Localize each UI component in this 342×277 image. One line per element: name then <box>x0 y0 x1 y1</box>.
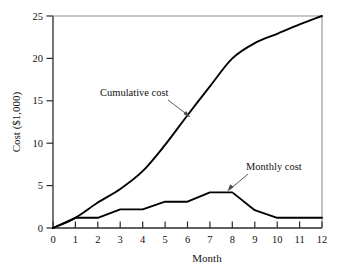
x-tick-label: 0 <box>50 234 55 245</box>
x-tick-label: 8 <box>230 234 235 245</box>
x-tick-label: 12 <box>317 234 328 245</box>
x-tick-label: 6 <box>185 234 190 245</box>
y-tick-label: 25 <box>33 11 44 22</box>
chart-canvas: 0 5 10 15 20 25 0 1 2 3 <box>0 0 342 277</box>
x-tick-label: 11 <box>295 234 305 245</box>
y-axis-ticks <box>47 16 54 228</box>
y-axis-title: Cost ($1,000) <box>10 91 23 152</box>
x-axis-tick-labels: 0 1 2 3 4 5 6 7 8 9 10 11 12 <box>50 234 327 245</box>
x-tick-label: 5 <box>162 234 167 245</box>
axes-frame <box>53 16 322 228</box>
annotation-label-monthly: Monthly cost <box>246 161 302 172</box>
x-tick-label: 1 <box>73 234 78 245</box>
x-tick-label: 10 <box>272 234 283 245</box>
line-cumulative-cost <box>53 16 322 228</box>
figure-container: 0 5 10 15 20 25 0 1 2 3 <box>0 0 342 277</box>
annotation-monthly-cost: Monthly cost <box>227 161 301 191</box>
x-tick-label: 9 <box>252 234 257 245</box>
y-tick-label: 0 <box>38 223 43 234</box>
x-tick-label: 7 <box>207 234 212 245</box>
y-tick-label: 15 <box>33 95 44 106</box>
x-tick-label: 4 <box>140 234 146 245</box>
series-lines <box>53 16 322 228</box>
y-tick-label: 20 <box>33 53 44 64</box>
x-axis-title: Month <box>192 252 222 264</box>
x-tick-label: 3 <box>118 234 123 245</box>
y-axis-tick-labels: 0 5 10 15 20 25 <box>33 11 44 234</box>
annotation-cumulative-cost: Cumulative cost <box>100 87 191 117</box>
y-tick-label: 5 <box>38 180 43 191</box>
x-axis-ticks <box>53 222 322 229</box>
y-tick-label: 10 <box>33 138 44 149</box>
x-tick-label: 2 <box>95 234 100 245</box>
annotation-label-cumulative: Cumulative cost <box>100 87 169 98</box>
